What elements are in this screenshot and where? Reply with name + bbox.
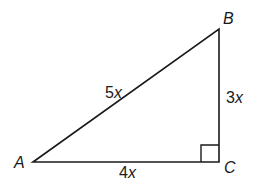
side-label-ac: 4x [119,164,137,181]
vertex-label-a: A [13,154,25,171]
triangle-abc [33,29,219,162]
vertex-label-b: B [223,10,234,27]
side-label-bc: 3x [226,89,244,106]
side-label-ab: 5x [105,84,123,101]
right-angle-marker [201,145,219,162]
vertex-label-c: C [224,159,236,176]
triangle-diagram: A B C 5x 3x 4x [0,0,255,187]
